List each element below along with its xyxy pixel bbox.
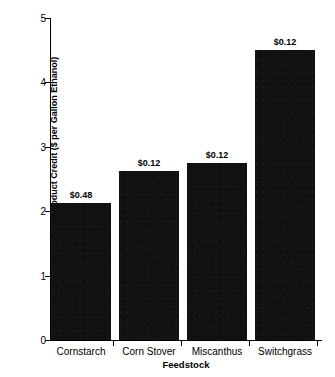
y-tick-label: 4 — [40, 77, 46, 88]
y-tick-label: 5 — [40, 13, 46, 24]
bar-chart: Total Cost with Coproduct Credit ($ per … — [0, 0, 335, 377]
bar-value-label: $0.12 — [206, 150, 229, 160]
bar-cornstarch — [51, 203, 111, 340]
bar-value-label: $0.48 — [70, 190, 93, 200]
x-axis-title: Feedstock — [50, 359, 322, 370]
y-tick-label: 2 — [40, 206, 46, 217]
y-tick-label: 1 — [40, 270, 46, 281]
bar-corn-stover — [119, 171, 179, 340]
bar-switchgrass — [255, 50, 315, 340]
x-tick-mark — [181, 340, 182, 346]
x-tick-mark — [113, 340, 114, 346]
bar-miscanthus — [187, 163, 247, 340]
bar-value-label: $0.12 — [138, 158, 161, 168]
x-category-label: Corn Stover — [122, 346, 175, 357]
x-category-label: Miscanthus — [192, 346, 243, 357]
x-tick-mark — [249, 340, 250, 346]
bar-value-label: $0.12 — [274, 37, 297, 47]
y-tick-label: 0 — [40, 335, 46, 346]
x-category-label: Cornstarch — [57, 346, 106, 357]
x-tick-mark — [317, 340, 318, 346]
x-category-label: Switchgrass — [258, 346, 312, 357]
y-tick-label: 3 — [40, 141, 46, 152]
x-axis-line — [50, 340, 322, 341]
plot-area: 0 1 2 3 4 5 $0.48 — [50, 18, 322, 340]
